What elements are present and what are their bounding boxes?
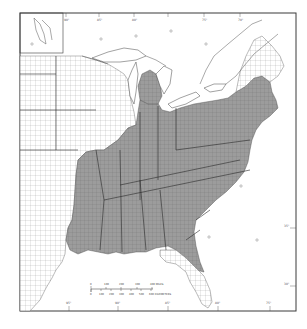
- top-tick-label-4: 75°: [202, 18, 208, 22]
- scale-km-400: 400: [129, 293, 134, 296]
- scale-miles-100: 100: [104, 283, 109, 286]
- top-tick-label-2: 85°: [97, 18, 103, 22]
- scale-miles-400: 400 MILES: [150, 283, 164, 286]
- bottom-tick-label-1: 95°: [66, 301, 72, 305]
- scale-km-300: 300: [119, 293, 124, 296]
- scale-km-600: 600 KILOMETERS: [149, 293, 172, 296]
- map-figure: 90° 85° 80° 75° 70° 95° 90° 85° 80° 75° …: [0, 0, 307, 329]
- scale-miles-200: 200: [119, 283, 124, 286]
- bottom-tick-label-4: 80°: [215, 301, 221, 305]
- top-tick-label-1: 90°: [64, 18, 70, 22]
- scale-km-100: 100: [99, 293, 104, 296]
- scale-km-500: 500: [139, 293, 144, 296]
- scale-km-200: 200: [109, 293, 114, 296]
- bottom-tick-label-3: 85°: [165, 301, 171, 305]
- bottom-tick-label-2: 90°: [115, 301, 121, 305]
- right-tick-label-1: 35°: [284, 224, 290, 228]
- scale-miles-300: 300: [135, 283, 140, 286]
- bottom-tick-label-5: 75°: [266, 301, 272, 305]
- top-tick-label-5: 70°: [238, 18, 244, 22]
- top-tick-label-3: 80°: [132, 18, 138, 22]
- right-tick-label-2: 30°: [284, 282, 290, 286]
